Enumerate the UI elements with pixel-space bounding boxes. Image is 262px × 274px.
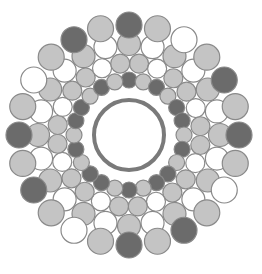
strand-light <box>171 27 197 53</box>
strand-dark <box>226 122 252 148</box>
strand-light <box>93 59 112 78</box>
strand-medium <box>222 150 248 176</box>
strand-dark <box>121 72 137 88</box>
strand-medium <box>135 180 151 196</box>
strand-medium <box>222 94 248 120</box>
strand-light <box>186 99 205 118</box>
strand-medium <box>66 127 82 143</box>
core-background <box>85 91 173 179</box>
core <box>85 91 173 179</box>
strand-medium <box>38 44 64 70</box>
strand-dark <box>6 122 32 148</box>
strand-light <box>53 152 72 171</box>
strand-dark <box>171 217 197 243</box>
strand-medium <box>194 44 220 70</box>
strand-light <box>21 67 47 93</box>
strand-dark <box>211 67 237 93</box>
strand-dark <box>116 232 142 258</box>
strand-dark <box>21 177 47 203</box>
strand-medium <box>38 200 64 226</box>
strand-medium <box>191 117 210 136</box>
strand-medium <box>194 200 220 226</box>
strand-dark <box>61 27 87 53</box>
strand-medium <box>144 16 170 42</box>
strand-light <box>211 177 237 203</box>
strand-medium <box>144 228 170 254</box>
strand-dark <box>116 12 142 38</box>
strand-light <box>146 192 165 211</box>
strand-medium <box>48 134 67 153</box>
strand-dark <box>174 113 190 129</box>
strand-medium <box>10 150 36 176</box>
strand-light <box>61 217 87 243</box>
strand-medium <box>107 74 123 90</box>
strand-dark <box>68 141 84 157</box>
strand-medium <box>128 197 147 216</box>
strand-medium <box>88 16 114 42</box>
diagram-canvas <box>0 0 262 274</box>
strand-medium <box>10 94 36 120</box>
cable-cross-section-diagram <box>0 0 262 274</box>
strand-medium <box>88 228 114 254</box>
strand-medium <box>176 127 192 143</box>
strand-dark <box>121 182 137 198</box>
strand-medium <box>111 54 130 73</box>
